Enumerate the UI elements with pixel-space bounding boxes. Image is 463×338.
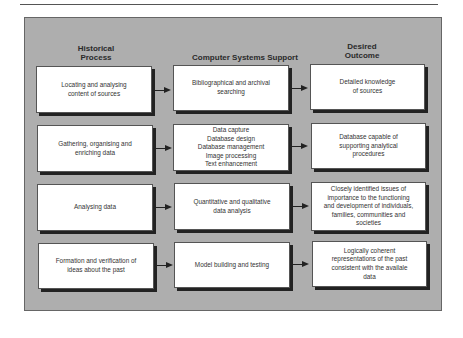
arrow-right-icon — [153, 87, 171, 94]
arrow-right-icon — [154, 204, 172, 211]
computer-box-1: Bibliographical and archival searching — [173, 65, 289, 111]
arrow-right-icon — [290, 143, 308, 150]
diagram-panel: Historical Process Computer Systems Supp… — [24, 17, 442, 311]
computer-text-4: Model building and testing — [195, 261, 269, 270]
outcome-text-1: Detailed knowledge of sources — [340, 78, 396, 95]
computer-text-2: Data capture Database design Database ma… — [198, 126, 264, 169]
computer-box-3: Quantitative and qualitative data analys… — [174, 183, 290, 230]
column-header-computer-systems-support: Computer Systems Support — [175, 53, 315, 62]
column-header-desired-outcome: Desired Outcome — [317, 42, 407, 60]
outcome-text-2: Database capable of supporting analytica… — [339, 133, 398, 159]
arrow-right-icon — [154, 145, 172, 152]
outcome-box-2: Database capable of supporting analytica… — [311, 123, 426, 169]
historical-box-1: Locating and analysing content of source… — [36, 66, 152, 113]
computer-text-1: Bibliographical and archival searching — [192, 79, 270, 96]
computer-box-2: Data capture Database design Database ma… — [173, 124, 289, 171]
outcome-text-3: Closely identified issues of importance … — [324, 185, 414, 228]
arrow-right-icon — [291, 203, 309, 210]
historical-box-4: Formation and verification of ideas abou… — [38, 243, 154, 289]
arrow-right-icon — [155, 262, 173, 269]
outcome-box-1: Detailed knowledge of sources — [310, 64, 425, 110]
historical-text-2: Gathering, organising and enriching data — [58, 140, 132, 157]
outcome-text-4: Logically coherent representations of th… — [331, 247, 407, 281]
column-header-historical-process: Historical Process — [51, 44, 141, 62]
arrow-right-icon — [291, 261, 309, 268]
computer-box-4: Model building and testing — [174, 242, 290, 288]
historical-box-3: Analysing data — [37, 184, 153, 231]
historical-text-4: Formation and verification of ideas abou… — [56, 257, 137, 274]
historical-box-2: Gathering, organising and enriching data — [37, 125, 153, 172]
outcome-box-3: Closely identified issues of importance … — [311, 182, 426, 231]
historical-text-3: Analysing data — [74, 203, 116, 212]
computer-text-3: Quantitative and qualitative data analys… — [193, 198, 270, 215]
top-rule — [20, 4, 438, 5]
arrow-right-icon — [290, 85, 308, 92]
outcome-box-4: Logically coherent representations of th… — [312, 241, 427, 287]
historical-text-1: Locating and analysing content of source… — [61, 81, 126, 98]
